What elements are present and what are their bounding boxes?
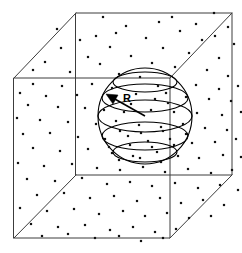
sphere-latitude-ring-5 — [113, 142, 177, 162]
particle-dot — [140, 240, 142, 242]
particle-dot — [108, 146, 110, 148]
particle-dot — [109, 229, 111, 231]
particle-dot — [202, 199, 204, 201]
particle-dot — [89, 197, 91, 199]
particle-dot — [214, 141, 216, 143]
particle-dot — [96, 167, 98, 169]
particle-dot — [162, 237, 164, 239]
particle-dot — [226, 129, 228, 131]
particle-dot — [175, 228, 177, 230]
particle-dot — [39, 119, 41, 121]
cube-edge-top-left-connector — [14, 13, 76, 78]
particle-dot — [145, 37, 147, 39]
particle-dot — [87, 56, 89, 58]
particle-dot — [118, 159, 120, 161]
particle-dot — [147, 140, 149, 142]
cube-edge-bottom-left-connector — [14, 175, 76, 238]
particle-dot — [169, 138, 171, 140]
particle-dot — [84, 224, 86, 226]
particle-dot — [150, 109, 152, 111]
particle-dot — [214, 35, 216, 37]
particle-dot — [208, 98, 210, 100]
particle-dot — [188, 52, 190, 54]
particle-dot — [67, 121, 69, 123]
particle-dot — [218, 57, 220, 59]
particle-dot — [191, 142, 193, 144]
particle-dot — [56, 28, 58, 30]
particle-dot — [109, 46, 111, 48]
particle-dot — [41, 235, 43, 237]
particle-dot — [111, 152, 113, 154]
particle-dot — [185, 96, 187, 98]
particle-dot — [164, 171, 166, 173]
particle-dot — [76, 94, 78, 96]
particle-dot — [210, 172, 212, 174]
particle-dot — [233, 43, 235, 45]
particle-dot — [71, 163, 73, 165]
particle-dot — [230, 100, 232, 102]
particle-dot — [17, 162, 19, 164]
particle-dot — [98, 213, 100, 215]
particle-dot — [111, 87, 113, 89]
particle-dot — [140, 132, 142, 134]
particle-dot — [46, 210, 48, 212]
particle-dot — [95, 123, 97, 125]
particle-dot — [139, 157, 141, 159]
particle-dot — [151, 62, 153, 64]
particle-dot — [182, 123, 184, 125]
particle-dot — [177, 155, 179, 157]
particle-dot — [44, 61, 46, 63]
particle-dot — [115, 120, 117, 122]
particle-dot — [188, 217, 190, 219]
particle-dot — [16, 117, 18, 119]
particle-dot — [156, 151, 158, 153]
particle-dot — [132, 226, 134, 228]
particle-dot — [157, 85, 159, 87]
particle-dot — [61, 85, 63, 87]
particle-dot — [87, 148, 89, 150]
particle-dot — [22, 133, 24, 135]
particle-dot — [54, 180, 56, 182]
particle-dot — [195, 84, 197, 86]
particle-dot — [135, 93, 137, 95]
particle-dot — [103, 109, 105, 111]
particle-dot — [118, 73, 120, 75]
particle-dot — [165, 92, 167, 94]
particle-dot — [171, 16, 173, 18]
particle-dot — [36, 194, 38, 196]
particle-dot — [119, 130, 121, 132]
particle-dot — [235, 138, 237, 140]
particle-dot — [45, 95, 47, 97]
particle-dot — [173, 111, 175, 113]
particle-dot — [32, 69, 34, 71]
particle-dot — [106, 183, 108, 185]
particle-dot — [125, 25, 127, 27]
particle-dot — [159, 197, 161, 199]
particle-dot — [19, 207, 21, 209]
particle-dot — [180, 202, 182, 204]
particle-dot — [115, 32, 117, 34]
particle-dot — [69, 71, 71, 73]
particle-dot — [206, 69, 208, 71]
particle-dot — [142, 166, 144, 168]
particle-dot — [99, 63, 101, 65]
particle-dot — [27, 104, 29, 106]
particle-dot — [94, 237, 96, 239]
particle-dot — [160, 126, 162, 128]
particle-dot — [63, 192, 65, 194]
cube-edge-top-right-connector — [170, 13, 232, 78]
particle-dot — [81, 177, 83, 179]
particle-dot — [49, 132, 51, 134]
particle-dot — [227, 75, 229, 77]
particle-dot — [95, 35, 97, 37]
particle-dot — [231, 169, 233, 171]
figure-canvas — [0, 0, 242, 253]
particle-dot — [151, 146, 153, 148]
particle-dot — [160, 161, 162, 163]
particle-dot — [151, 185, 153, 187]
particle-dot — [32, 83, 34, 85]
particle-dot — [130, 55, 132, 57]
particle-dot — [162, 130, 164, 132]
particle-dot — [173, 144, 175, 146]
particle-dot — [104, 138, 106, 140]
